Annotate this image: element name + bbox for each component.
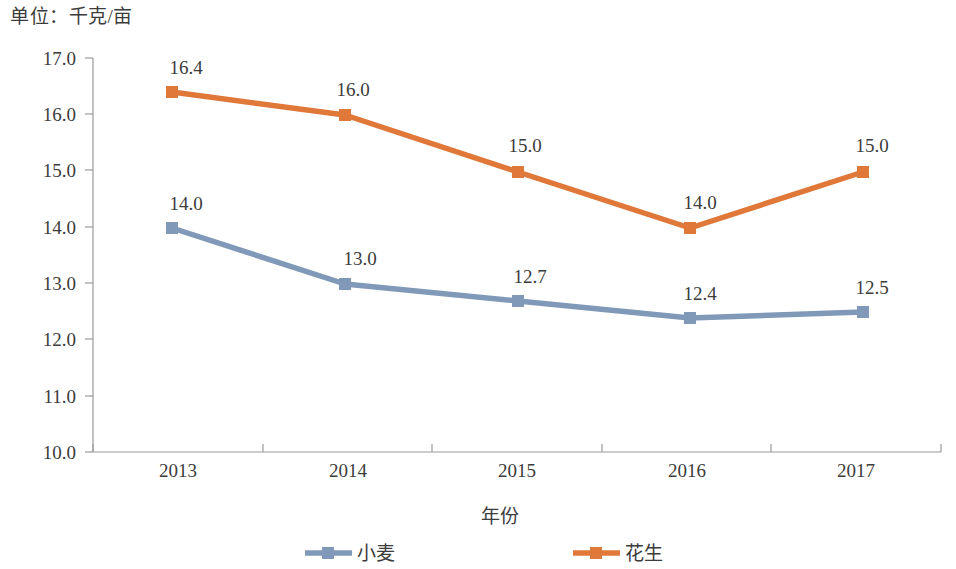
wheat-label-2013: 14.0: [169, 193, 202, 214]
y-tick-label-15: 15.0: [43, 160, 76, 181]
wheat-label-2014: 13.0: [343, 248, 376, 269]
wheat-marker-2017: [857, 306, 869, 318]
wheat-marker-2013: [166, 222, 178, 234]
y-tick-label-13: 13.0: [43, 273, 76, 294]
peanut-marker-2017: [857, 166, 869, 178]
legend-peanut-label: 花生: [625, 543, 663, 564]
y-tick-label-14: 14.0: [43, 217, 76, 238]
peanut-marker-2016: [684, 222, 696, 234]
peanut-label-2014: 16.0: [336, 79, 369, 100]
peanut-label-2016: 14.0: [683, 192, 716, 213]
peanut-label-2017: 15.0: [855, 135, 888, 156]
chart-container: 单位：千克/亩 17.0 16.0 15.0 14.0 13.0 12.0 11…: [0, 0, 956, 569]
peanut-label-2013: 16.4: [169, 57, 203, 78]
wheat-label-2015: 12.7: [513, 266, 546, 287]
legend-wheat-label: 小麦: [357, 543, 395, 564]
x-tick-label-2016: 2016: [668, 460, 706, 481]
x-tick-label-2017: 2017: [837, 460, 875, 481]
y-tick-label-17: 17.0: [43, 48, 76, 69]
x-axis-title: 年份: [481, 506, 519, 527]
peanut-marker-2015: [512, 166, 524, 178]
wheat-label-2017: 12.5: [855, 277, 888, 298]
wheat-marker-2016: [684, 312, 696, 324]
y-tick-label-11: 11.0: [43, 386, 76, 407]
line-chart-svg: 17.0 16.0 15.0 14.0 13.0 12.0 11.0 10.0 …: [0, 0, 956, 569]
y-tick-label-10: 10.0: [43, 442, 76, 463]
wheat-label-2016: 12.4: [683, 283, 717, 304]
legend-item-wheat[interactable]: 小麦: [305, 543, 395, 564]
peanut-label-2015: 15.0: [508, 135, 541, 156]
x-tick-label-2015: 2015: [498, 460, 536, 481]
y-tick-label-12: 12.0: [43, 329, 76, 350]
peanut-line: [172, 92, 863, 228]
peanut-marker-2014: [339, 109, 351, 121]
wheat-marker-2014: [339, 278, 351, 290]
wheat-marker-2015: [512, 295, 524, 307]
peanut-marker-2013: [166, 86, 178, 98]
legend-peanut-marker-icon: [590, 547, 602, 559]
x-tick-label-2013: 2013: [159, 460, 197, 481]
x-tick-label-2014: 2014: [329, 460, 368, 481]
y-tick-label-16: 16.0: [43, 104, 76, 125]
legend-wheat-marker-icon: [322, 547, 334, 559]
legend-item-peanut[interactable]: 花生: [573, 543, 663, 564]
